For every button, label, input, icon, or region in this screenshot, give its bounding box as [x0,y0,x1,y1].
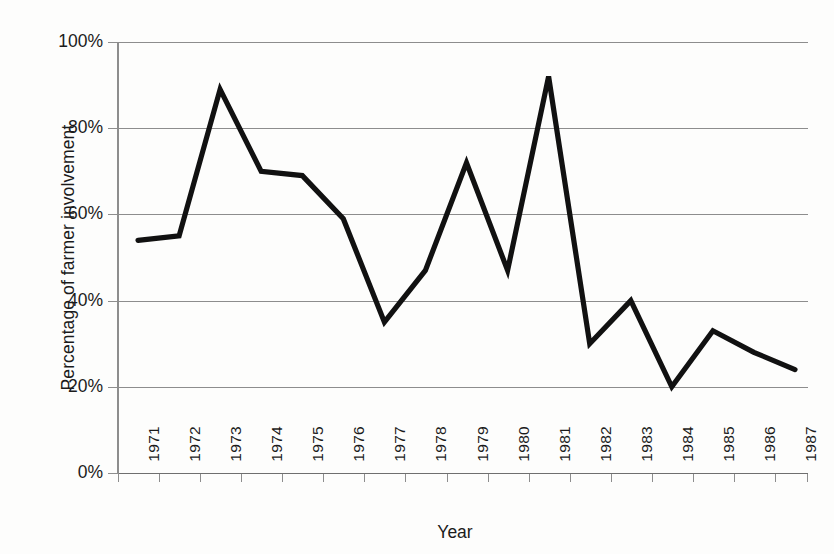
x-tick-label-1976: 1976 [350,426,368,486]
y-tick-label-40: 40% [13,290,103,311]
x-tick-mark-1974 [241,474,242,482]
x-tick-label-1977: 1977 [391,426,409,486]
x-tick-mark-1981 [529,474,530,482]
x-tick-label-1975: 1975 [309,426,327,486]
x-tick-mark-1979 [447,474,448,482]
x-tick-label-1971: 1971 [145,426,163,486]
x-tick-label-1981: 1981 [556,426,574,486]
x-tick-label-1979: 1979 [474,426,492,486]
y-tick-label-60: 60% [13,203,103,224]
x-tick-mark-1973 [200,474,201,482]
x-tick-mark-1982 [570,474,571,482]
x-tick-label-1986: 1986 [761,426,779,486]
x-tick-mark-end [807,474,808,482]
x-axis-title: Year [0,522,834,543]
y-tick-mark-0 [108,473,117,474]
y-tick-mark-60 [108,214,117,215]
x-tick-mark-1984 [652,474,653,482]
x-tick-label-1987: 1987 [802,426,820,486]
y-tick-mark-80 [108,128,117,129]
x-tick-label-1972: 1972 [186,426,204,486]
gridline-80 [117,128,808,129]
x-tick-mark-1985 [693,474,694,482]
y-tick-label-100: 100% [13,31,103,52]
x-tick-mark-1972 [159,474,160,482]
x-tick-label-1982: 1982 [597,426,615,486]
x-tick-mark-1987 [775,474,776,482]
x-tick-mark-1976 [323,474,324,482]
y-tick-mark-100 [108,42,117,43]
x-tick-mark-1978 [405,474,406,482]
y-tick-label-0: 0% [13,462,103,483]
x-tick-label-1985: 1985 [720,426,738,486]
gridline-100 [117,42,808,43]
x-tick-mark-1975 [282,474,283,482]
x-tick-mark-1977 [364,474,365,482]
gridline-20 [117,387,808,388]
x-tick-label-1978: 1978 [432,426,450,486]
y-tick-mark-40 [108,301,117,302]
x-tick-label-1973: 1973 [227,426,245,486]
x-axis-title-label: Year [437,522,472,543]
x-tick-label-1983: 1983 [638,426,656,486]
x-tick-mark-1983 [611,474,612,482]
line-chart-figure: Percentage of farmer involvement 100%80%… [0,0,834,554]
plot-area [117,42,808,473]
y-tick-label-20: 20% [13,376,103,397]
y-axis-line [117,42,119,474]
y-tick-mark-20 [108,387,117,388]
gridline-0 [117,473,808,474]
gridline-60 [117,214,808,215]
y-tick-label-80: 80% [13,117,103,138]
x-tick-mark-1971 [118,474,119,482]
y-axis-tick-labels: 100%80%60%40%20%0% [5,0,103,554]
x-tick-label-1984: 1984 [679,426,697,486]
x-tick-mark-1980 [488,474,489,482]
x-tick-mark-1986 [734,474,735,482]
x-tick-label-1980: 1980 [515,426,533,486]
gridline-40 [117,301,808,302]
x-tick-label-1974: 1974 [268,426,286,486]
